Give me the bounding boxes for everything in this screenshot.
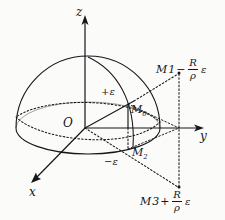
- epsilon-plus-label: +ε: [101, 87, 115, 97]
- m1-fraction: R ρ: [188, 58, 198, 81]
- point-m0-label: M0: [131, 104, 147, 115]
- m3-fraction: R ρ: [172, 190, 182, 213]
- point-m2-letter: M: [132, 146, 143, 159]
- hemisphere-diagram: z y x O M0 M2 +ε −ε M1 − R ρ ε M3 + R ρ …: [0, 0, 225, 220]
- m1-epsilon-factor: ε: [201, 64, 206, 75]
- m3-operator: +: [160, 195, 169, 208]
- epsilon-minus-label: −ε: [104, 157, 118, 167]
- x-axis-line: [36, 128, 85, 178]
- m1-operator: −: [176, 63, 185, 76]
- point-m2-subscript: 2: [143, 153, 147, 161]
- point-m2-label: M2: [132, 147, 148, 158]
- x-axis-label: x: [29, 186, 36, 198]
- m3-epsilon-factor: ε: [185, 196, 190, 207]
- point-m0-letter: M: [131, 103, 142, 116]
- m3-expression: M3 + R ρ ε: [140, 190, 190, 213]
- y-axis-label: y: [200, 130, 207, 142]
- m3-point-letter: M: [140, 195, 151, 208]
- m1-fraction-denominator: ρ: [190, 70, 196, 81]
- ray-origin-to-m0: [85, 101, 134, 128]
- m3-point-subscript: 3: [152, 195, 159, 208]
- m3-fraction-denominator: ρ: [174, 202, 180, 213]
- m1-point-letter: M: [156, 63, 167, 76]
- origin-label: O: [63, 117, 73, 129]
- z-axis-label: z: [76, 6, 82, 18]
- point-m0-subscript: 0: [142, 110, 146, 118]
- m1-point-subscript: 1: [168, 63, 175, 76]
- dome-outline-arc: [16, 56, 160, 128]
- m1-fraction-numerator: R: [189, 58, 197, 69]
- m3-fraction-numerator: R: [173, 190, 181, 201]
- m1-expression: M1 − R ρ ε: [156, 58, 206, 81]
